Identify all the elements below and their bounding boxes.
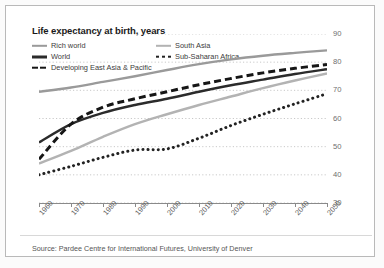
- y-axis-tick-label: 70: [333, 85, 341, 94]
- plot-area: [39, 34, 327, 203]
- source-note: Source: Pardee Centre for International …: [32, 244, 253, 253]
- series-line-sub-saharan-africa: [39, 94, 327, 175]
- plot-svg: [39, 34, 327, 203]
- y-axis-tick-label: 80: [333, 57, 341, 66]
- figure: Life expectancy at birth, years Rich wor…: [0, 0, 384, 268]
- y-axis-tick-label: 60: [333, 114, 341, 123]
- x-axis-tick-label: 2050: [325, 199, 343, 217]
- series-line-world: [39, 69, 327, 142]
- y-axis-tick-label: 90: [333, 29, 341, 38]
- y-axis-tick-label: 40: [333, 170, 341, 179]
- chart-frame: Life expectancy at birth, years Rich wor…: [5, 5, 375, 257]
- divider: [20, 235, 372, 236]
- y-axis-tick-label: 50: [333, 142, 341, 151]
